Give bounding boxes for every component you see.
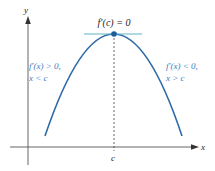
right-annotation-line1: f′(x) < 0, [166, 61, 198, 71]
left-annotation-line2: x < c [28, 73, 48, 83]
right-annotation: f′(x) < 0, x > c [165, 61, 198, 83]
critical-point-diagram: y x c f′(c) = 0 f′(x) > 0, x < c f′(x) <… [0, 0, 215, 171]
y-axis-label: y [23, 5, 28, 15]
critical-point-marker [111, 31, 117, 37]
x-axis-arrow-icon [191, 144, 199, 150]
parabola-curve [45, 34, 182, 136]
tick-label-c: c [111, 153, 115, 163]
left-annotation-line1: f′(x) > 0, [29, 61, 61, 71]
critical-point-label: f′(c) = 0 [98, 17, 131, 29]
y-axis-arrow-icon [25, 16, 31, 24]
axes [10, 16, 199, 165]
left-annotation: f′(x) > 0, x < c [28, 61, 61, 83]
right-annotation-line2: x > c [165, 73, 185, 83]
x-axis-label: x [200, 142, 205, 152]
